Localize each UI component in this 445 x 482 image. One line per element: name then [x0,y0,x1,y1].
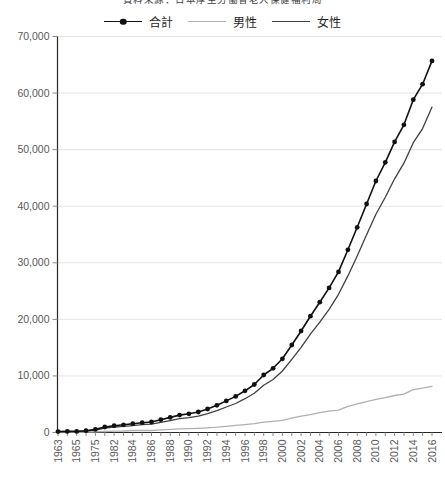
x-tick-label: 2006 [332,439,344,463]
series-marker-合計 [430,59,435,64]
x-tick-label: 2012 [388,439,400,463]
series-marker-合計 [168,415,173,420]
series-marker-合計 [355,225,360,230]
centenarian-line-chart: 資料来源：日本厚生労働省老人保健福利局 合計 男性 女性 010,00020,0… [0,0,445,482]
series-marker-合計 [130,421,135,426]
x-tick-label: 1990 [182,439,194,463]
series-marker-合計 [158,417,163,422]
series-marker-合計 [187,411,192,416]
y-tick-label: 60,000 [17,87,49,99]
series-marker-合計 [317,300,322,305]
series-marker-合計 [308,314,313,319]
series-marker-合計 [224,399,229,404]
series-marker-合計 [196,410,201,415]
series-marker-合計 [121,422,126,427]
x-tick-label: 1994 [220,439,232,463]
y-tick-label: 0 [44,426,50,438]
x-tick-label: 2016 [426,439,438,463]
series-marker-合計 [411,97,416,102]
x-tick-label: 1975 [89,439,101,463]
series-marker-合計 [271,366,276,371]
series-marker-合計 [392,140,397,145]
series-marker-合計 [289,343,294,348]
series-marker-合計 [383,160,388,165]
series-marker-合計 [420,82,425,87]
series-marker-合計 [205,407,210,412]
x-tick-label: 1988 [164,439,176,463]
series-marker-合計 [336,270,341,275]
y-tick-label: 10,000 [17,369,49,381]
x-tick-label: 1965 [70,439,82,463]
x-tick-label: 2014 [407,439,419,463]
series-marker-合計 [93,427,98,432]
series-marker-合計 [364,202,369,207]
series-marker-合計 [243,388,248,393]
series-marker-合計 [215,403,220,408]
y-tick-label: 50,000 [17,143,49,155]
x-tick-label: 1986 [145,439,157,463]
x-tick-label: 2002 [295,439,307,463]
series-marker-合計 [65,429,70,434]
series-marker-合計 [177,413,182,418]
x-tick-label: 2008 [351,439,363,463]
series-marker-合計 [299,329,304,334]
series-marker-合計 [56,429,61,434]
series-marker-合計 [74,429,79,434]
series-marker-合計 [374,179,379,184]
chart-canvas: 010,00020,00030,00040,00050,00060,00070,… [0,0,445,482]
x-tick-label: 2000 [276,439,288,463]
x-tick-label: 2004 [313,439,325,463]
y-tick-label: 70,000 [17,30,49,42]
series-marker-合計 [252,382,257,387]
series-line-女性 [58,107,432,432]
x-tick-label: 1963 [52,439,64,463]
series-marker-合計 [102,425,107,430]
series-marker-合計 [112,423,117,428]
x-tick-label: 1998 [257,439,269,463]
y-tick-label: 40,000 [17,200,49,212]
x-tick-label: 1996 [239,439,251,463]
series-marker-合計 [327,286,332,291]
x-tick-label: 1992 [201,439,213,463]
x-tick-label: 2010 [369,439,381,463]
series-marker-合計 [280,356,285,361]
series-marker-合計 [261,373,266,378]
series-marker-合計 [233,394,238,399]
y-tick-label: 20,000 [17,313,49,325]
x-tick-label: 1984 [126,439,138,463]
series-marker-合計 [149,420,154,425]
series-marker-合計 [346,247,351,252]
series-marker-合計 [84,428,89,433]
y-tick-label: 30,000 [17,256,49,268]
series-marker-合計 [402,122,407,127]
series-marker-合計 [140,420,145,425]
x-tick-label: 1982 [108,439,120,463]
